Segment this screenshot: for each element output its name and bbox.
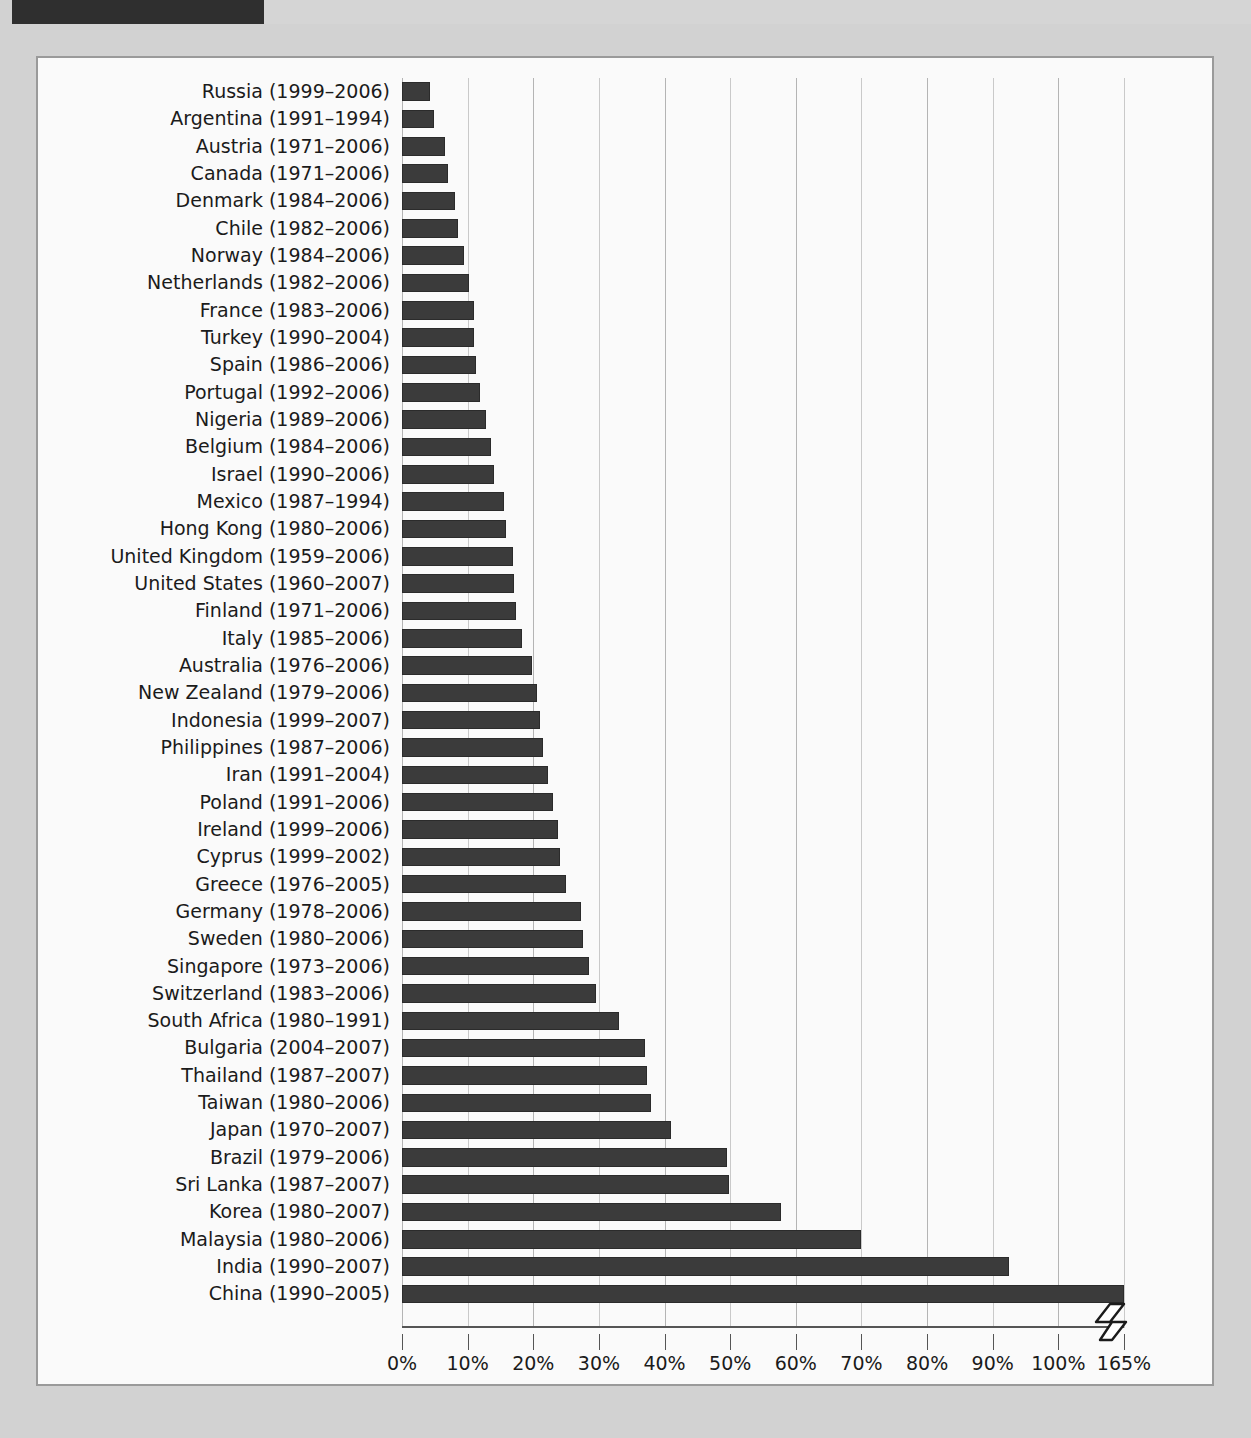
country-name: Taiwan (198, 1091, 263, 1113)
bar-row-label: Belgium (1984–2006) (42, 433, 402, 460)
bar-row-label: Portugal (1992–2006) (42, 379, 402, 406)
chart-panel: Russia (1999–2006)Argentina (1991–1994)A… (38, 58, 1212, 1384)
bar-row: Portugal (1992–2006) (402, 379, 1124, 406)
bar-row: Denmark (1984–2006) (402, 187, 1124, 214)
country-year-range: (2004–2007) (263, 1036, 390, 1058)
x-axis-line (402, 1326, 1124, 1328)
bar-row: United Kingdom (1959–2006) (402, 543, 1124, 570)
country-name: France (200, 299, 263, 321)
x-tick-40: 40% (643, 1352, 685, 1374)
country-year-range: (1985–2006) (263, 627, 390, 649)
bar (402, 1285, 1124, 1304)
country-year-range: (1982–2006) (263, 217, 390, 239)
country-name: India (216, 1255, 263, 1277)
bar-row: Switzerland (1983–2006) (402, 980, 1124, 1007)
country-year-range: (1990–2006) (263, 463, 390, 485)
bar-row: Ireland (1999–2006) (402, 816, 1124, 843)
bar-row-label: Hong Kong (1980–2006) (42, 515, 402, 542)
country-year-range: (1989–2006) (263, 408, 390, 430)
x-tick-20: 20% (512, 1352, 554, 1374)
bar (402, 410, 486, 429)
bar (402, 711, 540, 730)
country-name: Netherlands (147, 271, 263, 293)
x-tick-70: 70% (840, 1352, 882, 1374)
country-name: Brazil (210, 1146, 263, 1168)
bar-row-label: South Africa (1980–1991) (42, 1007, 402, 1034)
bar-row: Turkey (1990–2004) (402, 324, 1124, 351)
bar-row: Philippines (1987–2006) (402, 734, 1124, 761)
bar-row-label: Mexico (1987–1994) (42, 488, 402, 515)
bar (402, 684, 537, 703)
figure-box: Russia (1999–2006)Argentina (1991–1994)A… (36, 56, 1214, 1386)
bar (402, 274, 469, 293)
bar-row: Argentina (1991–1994) (402, 105, 1124, 132)
country-name: Singapore (167, 955, 263, 977)
x-tick-165: 165% (1097, 1352, 1151, 1374)
country-name: Philippines (161, 736, 263, 758)
bar (402, 738, 543, 757)
bar (402, 1230, 861, 1249)
country-year-range: (1978–2006) (263, 900, 390, 922)
country-name: New Zealand (138, 681, 263, 703)
bar-row: China (1990–2005) (402, 1280, 1124, 1307)
page-header-bar (12, 0, 264, 24)
bar-row: United States (1960–2007) (402, 570, 1124, 597)
bar-row-label: Switzerland (1983–2006) (42, 980, 402, 1007)
country-year-range: (1984–2006) (263, 244, 390, 266)
bar (402, 930, 583, 949)
bar-row-label: Turkey (1990–2004) (42, 324, 402, 351)
bar-row-label: Philippines (1987–2006) (42, 734, 402, 761)
x-tick-80: 80% (906, 1352, 948, 1374)
x-tick-mark (730, 1334, 731, 1350)
country-name: Bulgaria (184, 1036, 263, 1058)
bar-row-label: Norway (1984–2006) (42, 242, 402, 269)
country-year-range: (1990–2004) (263, 326, 390, 348)
bar-row: Sweden (1980–2006) (402, 925, 1124, 952)
country-year-range: (1999–2006) (263, 80, 390, 102)
country-name: Thailand (181, 1064, 263, 1086)
x-tick-30: 30% (578, 1352, 620, 1374)
bar-row-label: Sweden (1980–2006) (42, 925, 402, 952)
country-name: Italy (222, 627, 263, 649)
bar-row-label: Italy (1985–2006) (42, 625, 402, 652)
country-year-range: (1976–2005) (263, 873, 390, 895)
country-year-range: (1999–2002) (263, 845, 390, 867)
country-year-range: (1971–2006) (263, 162, 390, 184)
country-name: Sri Lanka (175, 1173, 263, 1195)
bar-row: Cyprus (1999–2002) (402, 843, 1124, 870)
bar-row: Canada (1971–2006) (402, 160, 1124, 187)
country-name: Spain (210, 353, 263, 375)
x-tick-mark (599, 1334, 600, 1350)
bar-row: Italy (1985–2006) (402, 625, 1124, 652)
x-tick-mark (861, 1334, 862, 1350)
bar (402, 356, 476, 375)
bar (402, 875, 566, 894)
x-tick-mark (468, 1334, 469, 1350)
bar-row: Thailand (1987–2007) (402, 1062, 1124, 1089)
bar-row: Russia (1999–2006) (402, 78, 1124, 105)
x-tick-mark (533, 1334, 534, 1350)
bar-rows: Russia (1999–2006)Argentina (1991–1994)A… (402, 78, 1124, 1328)
bar (402, 656, 532, 675)
bar (402, 438, 491, 457)
x-axis-tick-labels: 0%10%20%30%40%50%60%70%80%90%100%165% (402, 1352, 1162, 1386)
bar (402, 1121, 671, 1140)
bar (402, 137, 445, 156)
country-name: Germany (176, 900, 263, 922)
bar-row: Poland (1991–2006) (402, 789, 1124, 816)
x-tick-100: 100% (1031, 1352, 1085, 1374)
bar-row-label: Canada (1971–2006) (42, 160, 402, 187)
bar-row-label: Israel (1990–2006) (42, 461, 402, 488)
bar (402, 1012, 619, 1031)
country-name: Nigeria (195, 408, 263, 430)
country-name: Canada (191, 162, 263, 184)
bar-row-label: Poland (1991–2006) (42, 789, 402, 816)
bar (402, 383, 480, 402)
x-tick-mark (1058, 1334, 1059, 1350)
country-name: Sweden (188, 927, 263, 949)
plot-area: Russia (1999–2006)Argentina (1991–1994)A… (402, 78, 1124, 1328)
bar-row: Mexico (1987–1994) (402, 488, 1124, 515)
bar (402, 82, 430, 101)
bar-row: Hong Kong (1980–2006) (402, 515, 1124, 542)
bar-row-label: Thailand (1987–2007) (42, 1062, 402, 1089)
